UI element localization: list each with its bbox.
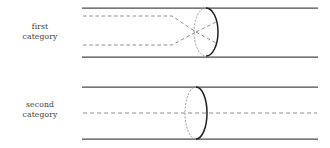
upper-ray-exit-first bbox=[196, 22, 216, 32]
ellipse-hidden-arc-first bbox=[194, 8, 206, 56]
row-label-first-line1: first bbox=[2, 22, 78, 32]
row-label-first-line2: category bbox=[2, 32, 78, 42]
lower-ray-exit-first bbox=[196, 32, 216, 43]
tube-group-second bbox=[82, 87, 318, 139]
upper-ray-first bbox=[83, 16, 196, 32]
row-label-second-line1: second bbox=[2, 100, 78, 110]
row-label-second: second category bbox=[2, 100, 78, 121]
row-label-first: first category bbox=[2, 22, 78, 43]
ellipse-solid-arc-first bbox=[206, 8, 218, 56]
row-label-second-line2: category bbox=[2, 110, 78, 120]
tube-group-first bbox=[82, 8, 318, 57]
figure-root: first category second category bbox=[0, 0, 330, 148]
lower-ray-first bbox=[83, 32, 196, 45]
